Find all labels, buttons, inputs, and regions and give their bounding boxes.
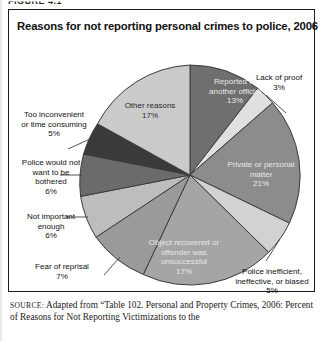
page-edge-rule bbox=[0, 0, 2, 341]
slice-label-line: Police would not bbox=[5, 158, 97, 168]
slice-label-too-inconvenient: Too inconvenient or time consuming 5% bbox=[4, 110, 104, 139]
slice-label-value: 6% bbox=[9, 231, 93, 241]
figure-number-label: FIGURE 4.1 bbox=[8, 0, 62, 6]
slice-label-line: Fear of reprisal bbox=[20, 262, 104, 272]
slice-label-line: Lack of proof bbox=[240, 73, 318, 83]
slice-label-line: Object recovered or bbox=[134, 238, 234, 248]
slice-label-line: offender was bbox=[134, 248, 234, 258]
slice-label-not-important-enough: Not important enough 6% bbox=[9, 212, 93, 241]
slice-label-line: Police inefficient, bbox=[222, 267, 322, 277]
source-prefix: SOURCE: bbox=[10, 301, 44, 310]
slice-label-line: ineffective, or biased bbox=[222, 277, 322, 287]
slice-label-police-would-not-want-to-be-bothered: Police would not want to be bothered 6% bbox=[5, 158, 97, 196]
slice-label-line: matter bbox=[215, 170, 307, 180]
slice-label-line: want to be bbox=[5, 168, 97, 178]
slice-label-value: 21% bbox=[215, 179, 307, 189]
slice-label-other-reasons: Other reasons 17% bbox=[108, 101, 192, 120]
slice-label-police-inefficient: Police inefficient, ineffective, or bias… bbox=[222, 267, 322, 296]
slice-label-value: 5% bbox=[222, 286, 322, 296]
slice-label-line: Too inconvenient bbox=[4, 110, 104, 120]
slice-label-object-recovered: Object recovered or offender was unsucce… bbox=[134, 238, 234, 276]
slice-label-value: 3% bbox=[240, 83, 318, 93]
slice-label-value: 6% bbox=[5, 187, 97, 197]
slice-label-line: Other reasons bbox=[108, 101, 192, 111]
source-note: SOURCE: Adapted from “Table 102. Persona… bbox=[10, 300, 316, 323]
slice-label-value: 5% bbox=[4, 129, 104, 139]
slice-label-value: 7% bbox=[20, 272, 104, 282]
source-text: Adapted from “Table 102. Personal and Pr… bbox=[10, 300, 313, 322]
slice-label-line: or time consuming bbox=[4, 120, 104, 130]
slice-label-value: 13% bbox=[196, 96, 274, 106]
leader-line-fear-of-reprisal bbox=[104, 257, 120, 275]
slice-label-line: Private or personal bbox=[215, 160, 307, 170]
slice-label-line: Not important bbox=[9, 212, 93, 222]
slice-label-value: 17% bbox=[134, 267, 234, 277]
slice-label-private-or-personal-matter: Private or personal matter 21% bbox=[215, 160, 307, 189]
slice-label-line: enough bbox=[9, 222, 93, 232]
slice-label-line: unsuccessful bbox=[134, 257, 234, 267]
slice-label-lack-of-proof: Lack of proof 3% bbox=[240, 73, 318, 92]
slice-label-value: 17% bbox=[108, 111, 192, 121]
slice-label-line: bothered bbox=[5, 177, 97, 187]
slice-label-fear-of-reprisal: Fear of reprisal 7% bbox=[20, 262, 104, 281]
